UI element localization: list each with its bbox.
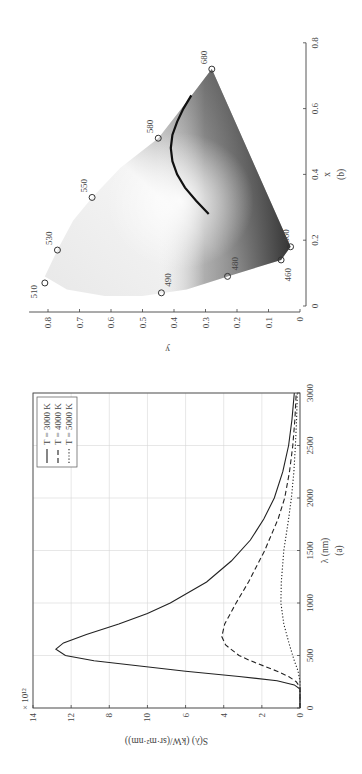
- wavelength-label: 360: [281, 229, 291, 243]
- chromaticity-diagram: 510530550580680490480460360 00.20.40.60.…: [29, 37, 347, 354]
- x-tick-label: 2500: [305, 436, 315, 455]
- y-tick-label: 10: [142, 713, 152, 723]
- x-tick-label: 2000: [305, 489, 315, 508]
- x-tick-label: 0: [310, 303, 320, 308]
- y-tick-label: 0.2: [232, 317, 242, 328]
- wavelength-label: 550: [79, 178, 89, 192]
- y-tick-label: 0: [295, 317, 305, 322]
- wavelength-label: 460: [283, 267, 293, 281]
- spectral-radiance-chart: 050010001500200025003000 14128106420 × 1…: [20, 384, 345, 747]
- x-tick-label: 1000: [305, 594, 315, 613]
- y-tick-label: 0: [295, 713, 305, 718]
- x-tick-label: 0.8: [310, 37, 320, 49]
- chart-a-legend: T = 3000 KT = 4000 KT = 5000 K: [37, 397, 77, 467]
- y-tick-label: 0.8: [43, 317, 53, 329]
- y-tick-label: 0.3: [201, 317, 211, 329]
- y-tick-label: 0.5: [138, 317, 148, 329]
- x-tick-label: 0.6: [310, 102, 320, 114]
- chart-a-caption: (a): [334, 545, 345, 556]
- x-tick-label: 0.4: [310, 168, 320, 180]
- x-tick-label: 500: [305, 648, 315, 662]
- legend-entry: T = 4000 K: [53, 403, 63, 445]
- chart-b-x-label: x: [322, 172, 332, 177]
- wavelength-label: 490: [163, 273, 173, 287]
- y-tick-label: 2: [257, 713, 267, 718]
- y-tick-label: 0.6: [106, 317, 116, 329]
- x-tick-label: 1500: [305, 541, 315, 560]
- chart-a-y-multiplier: × 10¹²: [20, 688, 30, 710]
- figure-canvas: 050010001500200025003000 14128106420 × 1…: [0, 0, 362, 774]
- legend-entry: T = 5000 K: [64, 403, 74, 445]
- chart-a-x-label: λ (nm): [320, 538, 331, 563]
- x-tick-label: 0: [305, 705, 315, 710]
- chart-a-y-ticks: 14128106420: [28, 705, 305, 722]
- wavelength-label: 530: [44, 231, 54, 245]
- chart-a-y-label: S(λ) (kW/(sr·m²·nm)): [125, 735, 208, 746]
- chart-b-caption: (b): [336, 169, 347, 180]
- figure: 050010001500200025003000 14128106420 × 1…: [0, 0, 362, 774]
- y-tick-label: 0.1: [264, 317, 274, 328]
- y-tick-label: 0.7: [75, 317, 85, 329]
- y-tick-label: 6: [181, 713, 191, 718]
- wavelength-marker: [42, 280, 48, 286]
- legend-entry: T = 3000 K: [42, 403, 52, 445]
- x-tick-label: 0.2: [310, 235, 320, 246]
- x-tick-label: 3000: [305, 384, 315, 403]
- wavelength-label: 480: [230, 256, 240, 270]
- y-tick-label: 0.4: [169, 317, 179, 329]
- wavelength-label: 680: [199, 50, 209, 64]
- y-tick-label: 14: [28, 713, 38, 723]
- y-tick-label: 12: [66, 713, 76, 722]
- chart-b-y-label: y: [165, 344, 170, 354]
- wavelength-label: 510: [29, 284, 39, 298]
- wavelength-label: 580: [145, 119, 155, 133]
- y-tick-label: 4: [219, 713, 229, 718]
- y-tick-label: 8: [104, 713, 114, 718]
